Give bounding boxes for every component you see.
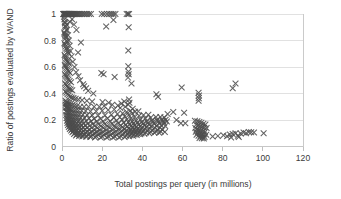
data-point-marker <box>81 83 87 89</box>
data-point-marker <box>179 85 185 91</box>
data-point-marker <box>181 110 187 116</box>
data-point-marker <box>89 99 95 105</box>
data-point-marker <box>125 63 131 69</box>
x-tick-label: 40 <box>138 153 148 163</box>
x-tick-label: 20 <box>97 153 107 163</box>
data-point-marker <box>75 50 81 56</box>
x-tick-label: 0 <box>60 153 65 163</box>
y-axis-title: Ratio of postings evaluated by WAND <box>5 8 15 151</box>
y-tick-label: 0.4 <box>44 89 56 99</box>
data-point-marker <box>126 24 132 30</box>
data-point-marker <box>129 81 135 87</box>
data-point-marker <box>74 27 80 33</box>
data-point-marker <box>170 109 176 115</box>
data-point-marker <box>155 94 161 100</box>
x-tick-label: 100 <box>256 153 271 163</box>
y-tick-label: 0.6 <box>44 62 56 72</box>
data-point-marker <box>165 111 171 117</box>
data-point-marker <box>112 74 118 80</box>
data-point-marker <box>111 17 117 23</box>
data-point-marker <box>103 24 109 30</box>
data-point-marker <box>162 129 168 135</box>
data-point-marker <box>121 99 127 105</box>
chart-canvas: 020406080100120 00.20.40.60.81 Total pos… <box>0 0 341 199</box>
data-point-marker <box>210 134 216 140</box>
data-point-marker <box>215 133 221 139</box>
x-tick-labels-group: 020406080100120 <box>60 153 311 163</box>
data-point-marker <box>80 81 86 87</box>
y-tick-labels-group: 00.20.40.60.81 <box>44 9 56 152</box>
data-point-marker <box>151 130 157 136</box>
tickmarks-group <box>62 147 303 151</box>
y-tick-label: 0 <box>51 142 56 152</box>
data-point-marker <box>261 130 267 136</box>
data-point-marker <box>126 97 132 103</box>
scatter-chart: 020406080100120 00.20.40.60.81 Total pos… <box>0 0 341 199</box>
data-point-marker <box>69 54 75 60</box>
data-point-marker <box>84 98 90 104</box>
data-point-marker <box>182 120 188 126</box>
y-tick-label: 0.2 <box>44 115 56 125</box>
data-points-group <box>60 11 266 141</box>
x-axis-title: Total postings per query (in millions) <box>114 179 251 189</box>
x-tick-label: 80 <box>218 153 228 163</box>
data-point-marker <box>116 134 122 140</box>
x-tick-label: 120 <box>296 153 311 163</box>
data-point-marker <box>105 107 111 113</box>
x-tick-label: 60 <box>178 153 188 163</box>
data-point-marker <box>125 48 131 54</box>
y-tick-label: 1 <box>51 9 56 19</box>
y-tick-label: 0.8 <box>44 36 56 46</box>
data-point-marker <box>101 71 107 77</box>
